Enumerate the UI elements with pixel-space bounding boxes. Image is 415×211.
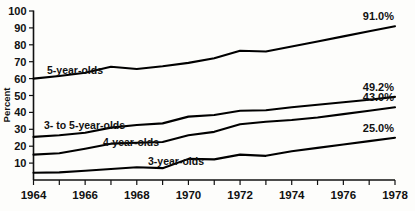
y-tick-label: 90	[14, 22, 26, 34]
x-tick-label: 1970	[176, 189, 202, 201]
end-label-5-year-olds: 91.0%	[363, 10, 394, 22]
x-tick-label: 1976	[331, 189, 357, 201]
x-tick-label: 1966	[72, 189, 98, 201]
x-tick-label: 1972	[227, 189, 253, 201]
x-tick-label: 1964	[21, 189, 47, 201]
y-tick-label: 80	[14, 39, 26, 51]
label-4-year-olds: 4-year-olds	[103, 136, 159, 148]
end-label-3-year-olds: 25.0%	[363, 122, 394, 134]
x-tick-label: 1974	[279, 189, 305, 201]
x-axis: 19641966196819701972197419761978	[21, 180, 409, 201]
series-line-3-year-olds	[34, 138, 396, 173]
y-tick-label: 60	[14, 73, 26, 85]
series-lines	[34, 26, 396, 173]
end-label-4-year-olds: 43.0%	[363, 91, 394, 103]
y-axis-title: Percent	[1, 87, 12, 123]
y-tick-label: 20	[14, 140, 26, 152]
line-chart: 102030405060708090100 196419661968197019…	[0, 0, 415, 211]
x-tick-label: 1978	[382, 189, 408, 201]
label-3-to-5-year-olds: 3- to 5-year-olds	[44, 119, 125, 131]
x-tick-label: 1968	[124, 189, 150, 201]
label-5-year-olds: 5-year-olds	[47, 64, 103, 76]
label-3-year-olds: 3-year-olds	[148, 155, 204, 167]
chart-container: 102030405060708090100 196419661968197019…	[0, 0, 415, 211]
y-tick-label: 10	[14, 157, 26, 169]
y-tick-label: 100	[8, 5, 26, 17]
y-tick-label: 40	[14, 106, 26, 118]
y-tick-label: 30	[14, 123, 26, 135]
y-tick-label: 50	[14, 90, 26, 102]
y-axis-title-label: Percent	[1, 87, 12, 123]
y-tick-label: 70	[14, 56, 26, 68]
